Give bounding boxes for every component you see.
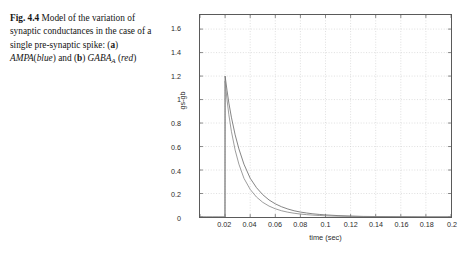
caption-line3: conductances in the case of a: [43, 26, 151, 36]
y-tick-label: 0.4: [141, 166, 181, 175]
y-tick-label: 1.6: [141, 24, 181, 33]
x-tick-label: 0.2: [432, 220, 472, 229]
figure-caption: Fig. 4.4 Model of the variation of synap…: [10, 12, 160, 69]
caption-line4-post: ): [115, 40, 118, 50]
caption-paren2-close: ): [133, 53, 136, 63]
caption-red-word: red: [121, 53, 133, 63]
x-axis-label: time (sec): [199, 233, 452, 242]
caption-blue-word: blue: [37, 53, 53, 63]
y-axis-label: gs-gb: [178, 71, 187, 131]
caption-ampa: AMPA: [10, 53, 34, 63]
caption-gaba: GABA: [88, 53, 112, 63]
y-tick-label: 0.2: [141, 190, 181, 199]
y-tick-label: 1.4: [141, 47, 181, 56]
caption-line4: single pre-synaptic spike: (: [10, 40, 110, 50]
chart-figure: 00.20.40.60.811.21.41.6 00.020.040.060.0…: [160, 0, 475, 253]
figure-number: Fig. 4.4: [10, 13, 39, 23]
y-tick-label: 0.8: [141, 119, 181, 128]
plot-area: [199, 14, 452, 218]
y-tick-label: 1: [141, 95, 181, 104]
y-tick-label: 0.6: [141, 142, 181, 151]
caption-and: ) and (: [53, 53, 77, 63]
figure-page: Fig. 4.4 Model of the variation of synap…: [0, 0, 475, 253]
caption-gaba-subscript: A: [111, 57, 115, 65]
y-tick-label: 1.2: [141, 71, 181, 80]
caption-line1: Model of the: [42, 13, 90, 23]
y-tick-label: 0: [141, 214, 181, 223]
data-curves: [200, 15, 451, 217]
